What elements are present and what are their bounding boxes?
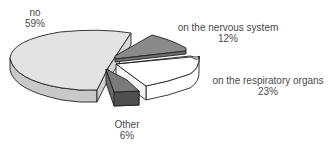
label-nervous-name: on the nervous system <box>168 22 288 33</box>
label-other-pct: 6% <box>112 130 142 141</box>
label-respiratory-organs: on the respiratory organs 23% <box>203 75 328 97</box>
label-nervous-system: on the nervous system 12% <box>168 22 288 44</box>
label-no-name: no <box>20 7 50 18</box>
label-nervous-pct: 12% <box>168 33 288 44</box>
label-no: no 59% <box>20 7 50 29</box>
label-other-name: Other <box>112 119 142 130</box>
label-respiratory-pct: 23% <box>203 86 328 97</box>
label-other: Other 6% <box>112 119 142 141</box>
label-no-pct: 59% <box>20 18 50 29</box>
label-respiratory-name: on the respiratory organs <box>203 75 328 86</box>
